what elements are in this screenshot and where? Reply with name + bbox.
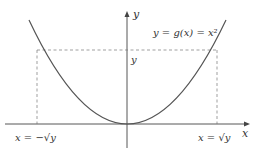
- parabola-diagram: y x y = g(x) = x² y x = −√y x = √y: [0, 0, 256, 153]
- y-axis-arrow-icon: [125, 11, 130, 17]
- right-root-label: x = √y: [198, 132, 231, 143]
- function-label: y = g(x) = x²: [152, 27, 218, 38]
- left-root-label: x = −√y: [15, 132, 56, 143]
- level-label: y: [130, 54, 137, 65]
- x-axis-label: x: [242, 127, 249, 140]
- y-axis-label: y: [132, 8, 140, 21]
- x-axis-arrow-icon: [244, 122, 250, 127]
